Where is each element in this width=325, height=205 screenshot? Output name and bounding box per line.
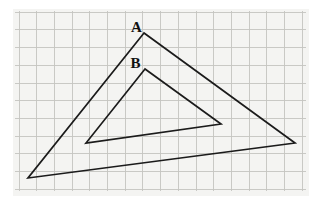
geometry-figure: A B bbox=[0, 0, 325, 205]
vertex-label-b: B bbox=[130, 55, 140, 71]
vertex-label-a: A bbox=[131, 19, 142, 35]
triangle-diagram-canvas: A B bbox=[0, 0, 325, 205]
